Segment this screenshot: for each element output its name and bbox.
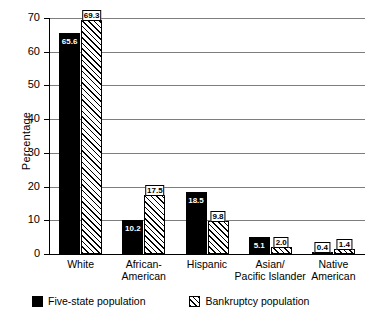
bar: 65.6 xyxy=(59,33,80,254)
y-tick-label: 50 xyxy=(0,78,40,90)
y-tick-label: 70 xyxy=(0,11,40,23)
legend-item-five-state: Five-state population xyxy=(32,295,145,307)
plot-area: 010203040506070 65.669.310.217.518.59.85… xyxy=(49,18,365,254)
legend-swatch-hatch-icon xyxy=(189,296,200,307)
y-tick-mark xyxy=(44,187,49,188)
bar: 5.1 xyxy=(249,237,270,254)
y-tick-label: 60 xyxy=(0,45,40,57)
bar: 18.5 xyxy=(186,192,207,254)
legend-label-five-state: Five-state population xyxy=(48,295,145,307)
y-tick-mark xyxy=(44,220,49,221)
bar: 2.0 xyxy=(271,247,292,254)
y-tick-mark xyxy=(44,85,49,86)
legend-item-bankruptcy: Bankruptcy population xyxy=(189,295,309,307)
bar-chart: Percentage 010203040506070 65.669.310.21… xyxy=(0,0,373,321)
y-tick-label: 0 xyxy=(0,247,40,259)
y-tick-label: 30 xyxy=(0,146,40,158)
y-tick-mark xyxy=(44,52,49,53)
y-axis-line xyxy=(49,18,50,254)
bar-value-label: 0.4 xyxy=(315,242,330,253)
legend-label-bankruptcy: Bankruptcy population xyxy=(205,295,309,307)
y-tick-mark xyxy=(44,18,49,19)
bar-value-label: 17.5 xyxy=(145,185,165,196)
x-tick-label-line: Native American xyxy=(296,258,371,282)
bar-value-label: 9.8 xyxy=(210,211,225,222)
y-tick-label: 20 xyxy=(0,180,40,192)
y-tick-mark xyxy=(44,153,49,154)
y-tick-label: 10 xyxy=(0,213,40,225)
x-tick-label: Native American xyxy=(296,258,371,282)
bar-value-label: 69.3 xyxy=(82,10,102,21)
bar-value-label: 10.2 xyxy=(123,223,143,234)
y-tick-mark xyxy=(44,254,49,255)
y-tick-mark xyxy=(44,119,49,120)
bar-value-label: 2.0 xyxy=(274,237,289,248)
bar: 9.8 xyxy=(208,221,229,254)
legend-swatch-solid-icon xyxy=(32,296,43,307)
bar: 69.3 xyxy=(81,20,102,254)
x-axis-line xyxy=(49,254,365,255)
bar: 1.4 xyxy=(334,249,355,254)
bar-value-label: 65.6 xyxy=(60,36,80,47)
x-tick-label-line: American xyxy=(106,270,181,282)
bar-value-label: 18.5 xyxy=(186,195,206,206)
bar: 0.4 xyxy=(312,252,333,254)
bar: 10.2 xyxy=(122,220,143,254)
bar-value-label: 5.1 xyxy=(252,240,267,251)
bar-value-label: 1.4 xyxy=(337,239,352,250)
bar: 17.5 xyxy=(144,195,165,254)
y-tick-label: 40 xyxy=(0,112,40,124)
legend: Five-state population Bankruptcy populat… xyxy=(32,295,309,307)
